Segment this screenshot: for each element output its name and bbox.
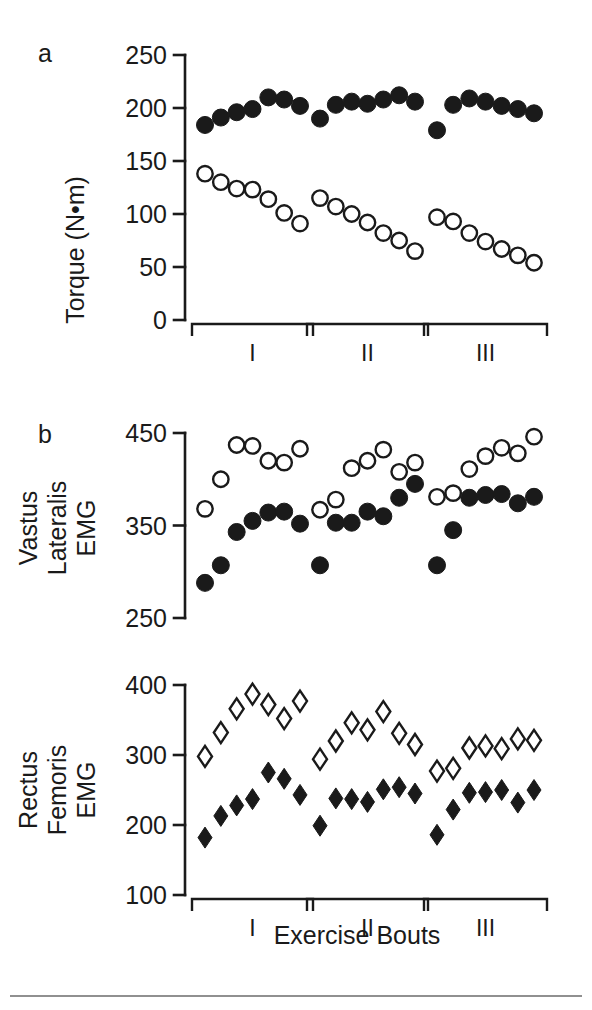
data-point-filled-circle — [445, 96, 462, 113]
y-tick-label: 0 — [153, 306, 167, 334]
data-point-open-circle — [197, 166, 212, 181]
data-point-filled-circle — [359, 503, 376, 520]
y-tick-label: 100 — [125, 200, 167, 228]
data-point-open-circle — [276, 205, 291, 220]
data-point-filled-circle — [407, 475, 424, 492]
data-point-filled-circle — [244, 101, 261, 118]
data-point-open-circle — [213, 175, 228, 190]
data-point-filled-circle — [477, 93, 494, 110]
data-point-open-circle — [213, 472, 228, 487]
data-point-filled-circle — [391, 489, 408, 506]
data-point-filled-circle — [228, 523, 245, 540]
data-point-open-circle — [478, 448, 493, 463]
data-point-filled-circle — [461, 90, 478, 107]
data-point-open-circle — [292, 216, 307, 231]
data-point-open-circle — [526, 429, 541, 444]
data-point-open-circle — [376, 442, 391, 457]
data-point-open-circle — [494, 241, 509, 256]
data-point-filled-circle — [312, 557, 329, 574]
data-point-filled-circle — [526, 105, 543, 122]
data-point-open-circle — [391, 233, 406, 248]
panel-b-ylabel-line: Lateralis — [43, 481, 71, 576]
data-point-open-circle — [429, 489, 444, 504]
data-point-open-circle — [261, 453, 276, 468]
data-point-filled-circle — [461, 489, 478, 506]
panel-b-label: b — [38, 420, 52, 448]
bout-label: I — [249, 915, 255, 941]
bout-label: III — [476, 915, 495, 941]
data-point-open-circle — [391, 464, 406, 479]
panel-b-ylabel-line: Vastus — [14, 491, 42, 566]
data-point-filled-circle — [493, 486, 510, 503]
data-point-open-circle — [510, 446, 525, 461]
y-tick-label: 400 — [125, 671, 167, 699]
scientific-figure: a Torque (N•m) 050100150200250 IIIIII b … — [0, 0, 592, 1010]
data-point-open-circle — [229, 437, 244, 452]
data-point-filled-circle — [526, 488, 543, 505]
y-tick-label: 200 — [125, 811, 167, 839]
x-axis-title: Exercise Bouts — [274, 921, 441, 949]
data-point-open-circle — [328, 492, 343, 507]
data-point-open-circle — [407, 455, 422, 470]
y-tick-label: 250 — [125, 41, 167, 69]
data-point-filled-circle — [509, 495, 526, 512]
data-point-open-circle — [360, 453, 375, 468]
data-point-open-circle — [462, 225, 477, 240]
bout-label: I — [249, 340, 255, 366]
figure-root: a Torque (N•m) 050100150200250 IIIIII b … — [0, 0, 592, 1010]
data-point-open-circle — [312, 502, 327, 517]
y-tick-label: 200 — [125, 94, 167, 122]
panel-a-ylabel: Torque (N•m) — [61, 176, 89, 324]
data-point-filled-circle — [197, 116, 214, 133]
y-tick-label: 100 — [125, 881, 167, 909]
data-point-filled-circle — [312, 110, 329, 127]
data-point-open-circle — [292, 441, 307, 456]
panel-b-ylabel-line: EMG — [72, 500, 100, 557]
data-point-filled-circle — [477, 486, 494, 503]
data-point-filled-circle — [343, 514, 360, 531]
data-point-filled-circle — [244, 512, 261, 529]
data-point-open-circle — [445, 214, 460, 229]
data-point-open-circle — [245, 438, 260, 453]
bout-label: III — [476, 340, 495, 366]
data-point-open-circle — [261, 191, 276, 206]
data-point-open-circle — [197, 501, 212, 516]
data-point-open-circle — [276, 455, 291, 470]
data-point-filled-circle — [260, 89, 277, 106]
data-point-filled-circle — [197, 574, 214, 591]
panel-a-label: a — [38, 39, 52, 67]
data-point-filled-circle — [276, 91, 293, 108]
data-point-filled-circle — [509, 101, 526, 118]
data-point-filled-circle — [327, 96, 344, 113]
data-point-filled-circle — [359, 95, 376, 112]
panel-c-ylabel-line: Rectus — [14, 751, 42, 829]
data-point-filled-circle — [429, 122, 446, 139]
data-point-open-circle — [312, 190, 327, 205]
data-point-filled-circle — [375, 91, 392, 108]
data-point-open-circle — [429, 209, 444, 224]
y-tick-label: 50 — [139, 253, 167, 281]
data-point-open-circle — [445, 485, 460, 500]
data-point-filled-circle — [343, 93, 360, 110]
bout-label: II — [361, 340, 374, 366]
data-point-open-circle — [360, 215, 375, 230]
data-point-filled-circle — [493, 97, 510, 114]
y-tick-label: 350 — [125, 512, 167, 540]
data-point-open-circle — [376, 225, 391, 240]
data-point-filled-circle — [429, 557, 446, 574]
data-point-filled-circle — [260, 504, 277, 521]
data-point-filled-circle — [292, 515, 309, 532]
data-point-filled-circle — [212, 109, 229, 126]
data-point-open-circle — [344, 206, 359, 221]
data-point-open-circle — [510, 248, 525, 263]
data-point-open-circle — [462, 461, 477, 476]
data-point-filled-circle — [391, 87, 408, 104]
data-point-filled-circle — [327, 514, 344, 531]
panel-c-ylabel-line: Femoris — [43, 745, 71, 835]
data-point-open-circle — [407, 243, 422, 258]
data-point-open-circle — [229, 181, 244, 196]
data-point-filled-circle — [228, 104, 245, 121]
data-point-filled-circle — [445, 522, 462, 539]
panel-c-ylabel-line: EMG — [72, 762, 100, 819]
data-point-open-circle — [328, 199, 343, 214]
